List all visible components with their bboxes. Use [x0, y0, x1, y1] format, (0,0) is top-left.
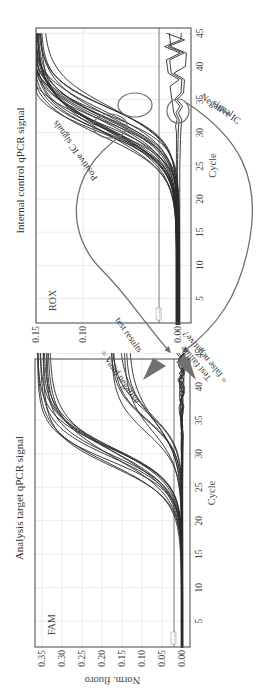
svg-text:0.20: 0.20: [97, 650, 107, 667]
chart-title: Internal control qPCR signal: [14, 107, 26, 233]
positive-ic-circle-2: [118, 93, 152, 117]
svg-text:10: 10: [195, 260, 205, 270]
valid-negative-results-label: test results: [113, 315, 145, 354]
x-axis-ticks: 51015202530354045: [194, 348, 204, 623]
svg-text:25: 25: [195, 161, 205, 171]
rox-chart-panel: Threshold51015202530354045Cycle0.000.100…: [14, 28, 218, 343]
svg-text:0.00: 0.00: [173, 326, 183, 343]
svg-text:45: 45: [195, 28, 205, 38]
svg-text:5: 5: [195, 296, 205, 301]
y-axis-label: Norm. fluoro: [85, 675, 140, 686]
arrowhead-valid-negative: [143, 358, 166, 380]
threshold-label: Threshold: [158, 308, 161, 319]
channel-label: ROX: [47, 289, 58, 311]
svg-text:0.10: 0.10: [78, 326, 88, 343]
amplification-curves: [37, 33, 187, 325]
threshold-label: Threshold: [173, 632, 176, 643]
svg-text:15: 15: [195, 227, 205, 237]
svg-text:20: 20: [195, 194, 205, 204]
amplification-curves: [38, 353, 185, 648]
gridlines: [35, 353, 190, 647]
svg-text:0.05: 0.05: [157, 650, 167, 667]
svg-text:0.10: 0.10: [137, 650, 147, 667]
svg-text:15: 15: [194, 549, 204, 559]
svg-text:0.25: 0.25: [77, 650, 87, 667]
svg-text:10: 10: [194, 583, 204, 593]
x-axis-label: Cycle: [207, 153, 218, 178]
svg-text:0.15: 0.15: [31, 326, 41, 343]
channel-label: FAM: [46, 614, 57, 635]
valid-negative-label: = Valid negative: [98, 348, 142, 405]
figure-stage: Threshold51015202530354045Cycle0.000.050…: [0, 0, 273, 698]
svg-text:25: 25: [194, 482, 204, 492]
svg-text:5: 5: [194, 619, 204, 624]
svg-text:30: 30: [194, 449, 204, 459]
x-axis-ticks: 51015202530354045: [195, 28, 205, 301]
test-failure-arrow: [183, 103, 252, 352]
svg-text:20: 20: [194, 516, 204, 526]
svg-text:30: 30: [195, 128, 205, 138]
y-axis-ticks: 0.000.050.100.150.200.250.300.35: [37, 650, 187, 667]
x-axis-label: Cycle: [206, 480, 217, 505]
chart-title: Analysis target qPCR signal: [13, 436, 25, 560]
svg-text:40: 40: [194, 382, 204, 392]
svg-text:35: 35: [194, 415, 204, 425]
svg-text:0.00: 0.00: [177, 650, 187, 667]
positive-ic-label: Positive IC signals: [50, 118, 99, 182]
qpcr-figure: Threshold51015202530354045Cycle0.000.050…: [0, 0, 273, 698]
fam-chart-panel: Threshold51015202530354045Cycle0.000.050…: [13, 348, 217, 686]
svg-text:0.15: 0.15: [117, 650, 127, 667]
svg-text:40: 40: [195, 61, 205, 71]
svg-text:0.35: 0.35: [37, 650, 47, 667]
svg-text:0.30: 0.30: [57, 650, 67, 667]
